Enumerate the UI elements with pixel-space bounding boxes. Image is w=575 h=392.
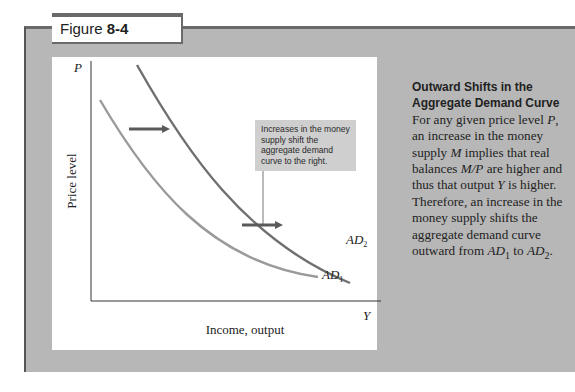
caption-var: AD xyxy=(487,243,505,258)
caption-var: P xyxy=(547,112,555,127)
callout-box: Increases in the money supply shift the … xyxy=(255,120,356,171)
caption-var: Y xyxy=(497,177,504,192)
ad2-curve xyxy=(137,65,350,283)
caption-text: For any given price level xyxy=(412,112,547,127)
x-axis-title: Income, output xyxy=(180,322,310,338)
caption-var: M xyxy=(450,145,461,160)
caption-var: M/P xyxy=(461,161,484,176)
x-axis-symbol: Y xyxy=(363,308,370,324)
ad2-label-name: AD xyxy=(346,232,363,247)
ad2-label-subscript: 2 xyxy=(363,240,367,249)
ad2-label: AD2 xyxy=(346,232,367,249)
y-axis-symbol: P xyxy=(74,60,82,76)
ad1-label-name: AD xyxy=(322,267,339,282)
caption-text: to xyxy=(510,243,527,258)
caption-title: Outward Shifts in the Aggregate Demand C… xyxy=(412,80,559,110)
y-axis-title: Price level xyxy=(64,136,80,226)
shift-arrow-icon xyxy=(129,125,170,133)
figure-caption: Outward Shifts in the Aggregate Demand C… xyxy=(412,79,572,264)
caption-text: . xyxy=(550,243,553,258)
caption-var: AD xyxy=(527,243,545,258)
ad1-label: AD1 xyxy=(322,267,343,284)
ad1-label-subscript: 1 xyxy=(339,275,343,284)
